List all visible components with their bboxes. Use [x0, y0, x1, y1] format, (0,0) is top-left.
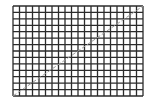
grid-diagram [0, 0, 156, 103]
